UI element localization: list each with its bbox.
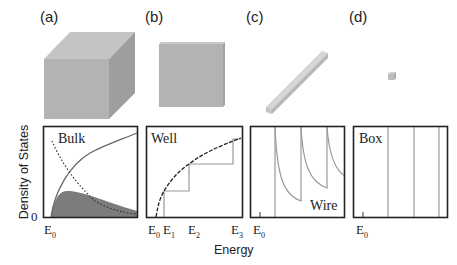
tick-b-e3: E3: [231, 222, 243, 240]
tick-b-e1: E1: [163, 222, 175, 240]
box-title: Box: [359, 131, 382, 147]
tick-b-e0: E0: [148, 222, 160, 240]
tick-b-e2: E2: [188, 222, 200, 240]
x-axis-label: Energy: [214, 243, 254, 257]
quantum-dot-icon: [388, 72, 396, 80]
wire-title: Wire: [310, 198, 337, 214]
bulk-cube-icon: [44, 32, 135, 119]
well-title: Well: [151, 131, 177, 147]
tick-c-e0: E0: [253, 222, 265, 240]
quantum-wire-rod-icon: [266, 51, 328, 114]
y-axis-label: Density of States: [17, 112, 31, 232]
bulk-title: Bulk: [58, 131, 85, 147]
quantum-well-slab-icon: [159, 42, 225, 107]
tick-d-e0: E0: [356, 222, 368, 240]
tick-a-e0: E0: [44, 222, 56, 240]
y-zero-label: 0: [31, 209, 38, 225]
